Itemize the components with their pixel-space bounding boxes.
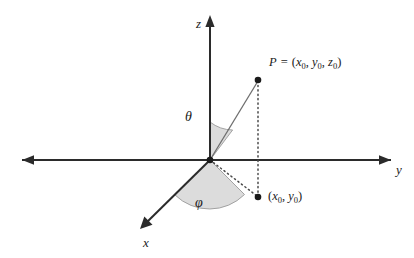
point-p-paren-close: ) [337, 55, 341, 69]
projection-x-sub: 0 [278, 195, 282, 205]
y-axis-label: y [396, 163, 402, 176]
point-p-label: P=(x0, y0, z0) [269, 56, 341, 69]
projection-paren-close: ) [298, 189, 302, 203]
z-axis-arrowhead [205, 15, 214, 27]
point-p-marker [255, 77, 262, 84]
point-p-equals: = [281, 55, 288, 69]
x-axis-label: x [143, 236, 149, 249]
z-axis-label: z [196, 17, 201, 30]
point-p-y: y [312, 55, 318, 69]
radial-ray-to-p [210, 81, 258, 160]
point-p-x-sub: 0 [301, 61, 305, 71]
point-p-comma-1: , [306, 55, 309, 69]
theta-angle-label: θ [185, 110, 192, 124]
projection-y-sub: 0 [294, 195, 298, 205]
point-p-comma-2: , [322, 55, 325, 69]
projection-y: y [288, 189, 294, 203]
projection-x: x [272, 189, 278, 203]
point-p-name: P [269, 55, 277, 69]
point-p-y-sub: 0 [318, 61, 322, 71]
spherical-coordinates-diagram [0, 0, 414, 258]
y-axis-arrowhead-right [379, 155, 391, 165]
projection-comma: , [282, 189, 285, 203]
point-p-z-sub: 0 [333, 61, 337, 71]
phi-angle-label: φ [195, 196, 203, 210]
projection-point-label: (x0, y0) [268, 190, 302, 203]
projection-point-marker [255, 194, 262, 201]
origin-point-marker [207, 157, 214, 164]
y-axis-arrowhead-left [22, 155, 34, 165]
